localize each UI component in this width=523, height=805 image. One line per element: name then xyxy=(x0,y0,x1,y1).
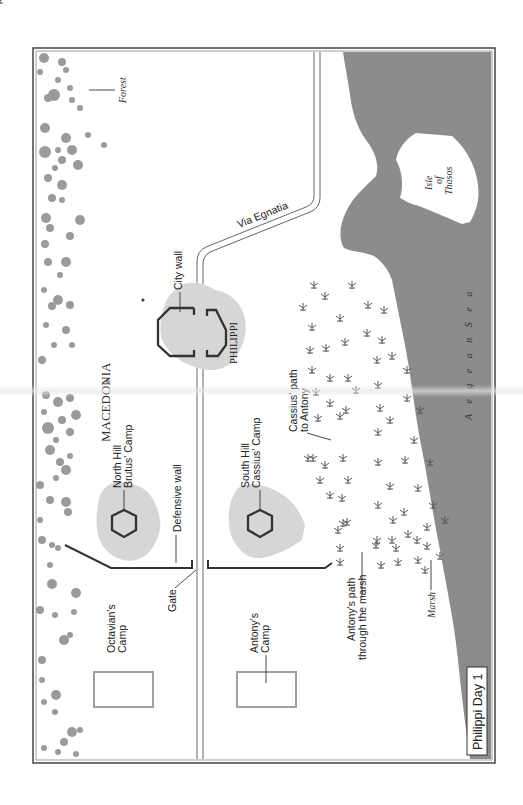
svg-text:to Antony: to Antony xyxy=(298,387,310,432)
forest-label: Forest xyxy=(117,77,128,104)
philippi-label: PHILIPPI xyxy=(228,321,239,364)
svg-text:Camp: Camp xyxy=(116,625,128,653)
svg-text:Camp: Camp xyxy=(259,625,271,653)
marsh-label: Marsh xyxy=(426,592,437,619)
defensive-wall-label: Defensive wall xyxy=(171,464,183,532)
map-title: Philippi Day 1 xyxy=(471,674,485,750)
city-wall-label: City wall xyxy=(172,251,184,290)
map-title-box: Philippi Day 1 xyxy=(467,667,487,755)
aegean-sea-label: A e g e a n S e a xyxy=(463,288,474,421)
svg-text:through the marsh: through the marsh xyxy=(356,575,368,660)
svg-text:Thasos: Thasos xyxy=(443,167,454,195)
battle-map: Forest MACEDONIA Isle of Thasos Via Egna… xyxy=(0,0,523,805)
region-label-macedonia: MACEDONIA xyxy=(98,362,113,442)
point-marker xyxy=(142,299,145,302)
gate-label: Gate xyxy=(166,589,178,612)
svg-text:Cassius' Camp: Cassius' Camp xyxy=(250,418,262,488)
svg-text:Brutus' Camp: Brutus' Camp xyxy=(122,425,134,488)
